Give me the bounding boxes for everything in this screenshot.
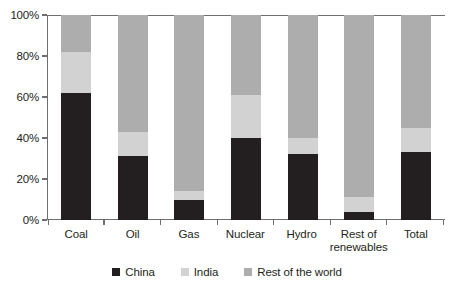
- bar-segment-rest-of-the-world: [174, 15, 204, 191]
- y-axis-tick-label: 80%: [17, 49, 39, 63]
- bar-segment-india: [174, 191, 204, 199]
- x-axis-label: Nuclear: [217, 228, 273, 254]
- legend-item[interactable]: India: [181, 266, 218, 278]
- x-axis-label: Rest of renewables: [330, 228, 388, 254]
- stacked-bar[interactable]: [118, 15, 148, 220]
- legend-label: India: [194, 266, 218, 278]
- legend-label: China: [125, 266, 155, 278]
- y-axis-tick-mark: [42, 55, 47, 56]
- x-axis-label: Total: [388, 228, 444, 254]
- bar-segment-china: [344, 212, 374, 220]
- bar-segment-india: [61, 52, 91, 93]
- stacked-bar[interactable]: [344, 15, 374, 220]
- y-axis-tick: 0%: [23, 213, 47, 227]
- y-axis-tick-mark: [42, 14, 47, 15]
- y-axis-tick-label: 40%: [17, 131, 39, 145]
- bar-segment-china: [401, 152, 431, 220]
- bar-slot: [105, 15, 162, 220]
- x-axis-labels: CoalOilGasNuclearHydroRest of renewables…: [48, 228, 444, 254]
- bar-segment-rest-of-the-world: [231, 15, 261, 95]
- bar-segment-rest-of-the-world: [118, 15, 148, 132]
- x-axis-ticks: [48, 220, 444, 226]
- bar-segment-china: [118, 156, 148, 220]
- x-axis-tick: [387, 220, 444, 226]
- stacked-bar[interactable]: [174, 15, 204, 220]
- y-axis-tick: 40%: [17, 131, 47, 145]
- y-axis: 100%80%60%40%20%0%: [0, 0, 47, 240]
- bar-segment-india: [231, 95, 261, 138]
- legend-swatch-icon: [181, 268, 189, 276]
- bar-segment-india: [118, 132, 148, 157]
- y-axis-tick-mark: [42, 178, 47, 179]
- bar-segment-india: [401, 128, 431, 153]
- y-axis-tick: 100%: [10, 8, 47, 22]
- bar-slot: [48, 15, 105, 220]
- x-axis-tick: [105, 220, 162, 226]
- x-axis-tick: [274, 220, 331, 226]
- bar-segment-china: [288, 154, 318, 220]
- x-axis-label: Oil: [104, 228, 160, 254]
- stacked-bar[interactable]: [288, 15, 318, 220]
- bar-slot: [331, 15, 388, 220]
- bar-segment-china: [61, 93, 91, 220]
- y-axis-tick-mark: [42, 219, 47, 220]
- legend-swatch-icon: [244, 268, 252, 276]
- legend-item[interactable]: China: [112, 266, 155, 278]
- y-axis-tick-label: 60%: [17, 90, 39, 104]
- legend-label: Rest of the world: [257, 266, 342, 278]
- bar-segment-rest-of-the-world: [288, 15, 318, 138]
- stacked-bar[interactable]: [231, 15, 261, 220]
- stacked-bar-chart: 100%80%60%40%20%0% CoalOilGasNuclearHydr…: [0, 0, 454, 290]
- x-axis-tick: [161, 220, 218, 226]
- bar-slot: [161, 15, 218, 220]
- bar-segment-china: [231, 138, 261, 220]
- y-axis-tick-label: 100%: [10, 8, 39, 22]
- x-axis-tick: [218, 220, 275, 226]
- x-axis-tick: [48, 220, 105, 226]
- bar-segment-rest-of-the-world: [61, 15, 91, 52]
- y-axis-tick-mark: [42, 96, 47, 97]
- y-axis-tick-label: 0%: [23, 213, 39, 227]
- bar-segment-india: [288, 138, 318, 154]
- x-axis-label: Coal: [48, 228, 104, 254]
- y-axis-tick-mark: [42, 137, 47, 138]
- y-axis-tick: 80%: [17, 49, 47, 63]
- bars-container: [48, 15, 444, 220]
- chart-legend: ChinaIndiaRest of the world: [0, 266, 454, 278]
- bar-segment-china: [174, 200, 204, 221]
- bar-slot: [387, 15, 444, 220]
- x-axis-label: Gas: [161, 228, 217, 254]
- bar-segment-rest-of-the-world: [344, 15, 374, 197]
- stacked-bar[interactable]: [61, 15, 91, 220]
- legend-item[interactable]: Rest of the world: [244, 266, 342, 278]
- y-axis-tick: 60%: [17, 90, 47, 104]
- bar-segment-rest-of-the-world: [401, 15, 431, 128]
- legend-swatch-icon: [112, 268, 120, 276]
- x-axis-label: Hydro: [273, 228, 329, 254]
- y-axis-tick: 20%: [17, 172, 47, 186]
- bar-segment-india: [344, 197, 374, 211]
- bar-slot: [218, 15, 275, 220]
- stacked-bar[interactable]: [401, 15, 431, 220]
- y-axis-tick-label: 20%: [17, 172, 39, 186]
- x-axis-tick: [331, 220, 388, 226]
- bar-slot: [274, 15, 331, 220]
